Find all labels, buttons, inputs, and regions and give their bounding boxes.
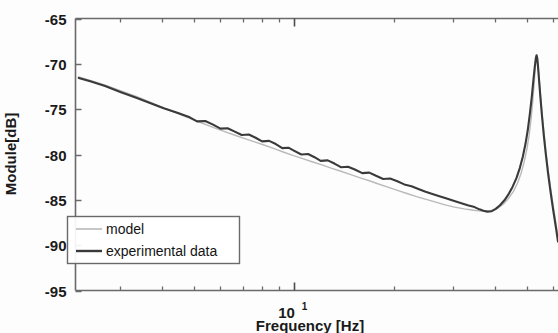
y-tick-label: -80 xyxy=(45,147,67,164)
y-tick-label: -70 xyxy=(45,56,67,73)
legend: model experimental data xyxy=(68,217,240,264)
y-tick-label: -75 xyxy=(45,101,67,118)
y-tick-label: -85 xyxy=(45,192,67,209)
chart-figure: -65-70-75-80-85-90-95 10 1 Frequency [Hz… xyxy=(0,0,558,333)
x-tick-exponent-text: 1 xyxy=(302,301,308,312)
x-axis-title: Frequency [Hz] xyxy=(256,317,364,333)
y-tick-label: -90 xyxy=(45,237,67,254)
y-axis-title: Module[dB] xyxy=(2,113,19,195)
bode-magnitude-plot: -65-70-75-80-85-90-95 10 1 Frequency [Hz… xyxy=(0,0,558,333)
legend-label-experimental-data: experimental data xyxy=(106,243,218,259)
legend-label-model: model xyxy=(106,221,144,237)
y-tick-label: -95 xyxy=(45,283,67,300)
y-tick-label: -65 xyxy=(45,11,67,28)
figure-background xyxy=(0,0,558,333)
